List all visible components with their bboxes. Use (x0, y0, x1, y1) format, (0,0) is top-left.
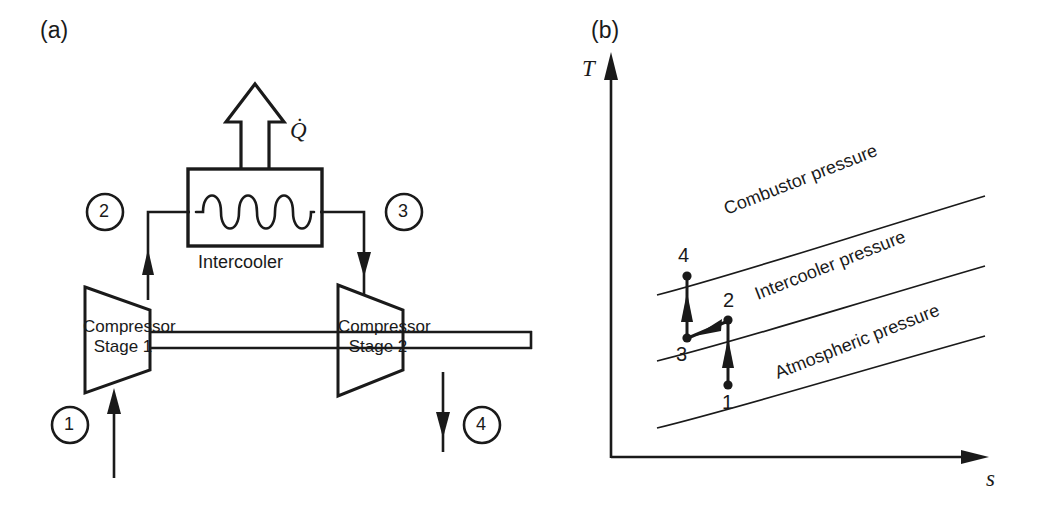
compressor-stage-2-line2: Stage 2 (338, 337, 418, 356)
panel-b-tag: (b) (591, 18, 619, 44)
heat-arrow-icon (226, 84, 284, 170)
ts-point-label-3: 3 (676, 343, 687, 365)
pipe-2-to-intercooler (148, 212, 190, 300)
compressor-stage-1-line2: Stage 1 (83, 337, 163, 356)
s-axis-label: s (986, 466, 995, 492)
compressor-stage-1-line1: Compressor (83, 317, 163, 336)
ts-diagram-svg (571, 0, 1041, 505)
ts-point-3 (682, 333, 691, 342)
intercooler-box (188, 169, 322, 246)
flow-arrow-2-icon (142, 249, 154, 275)
state-circle-label-3: 3 (398, 201, 408, 221)
state-circle-label-1: 1 (64, 414, 74, 434)
ts-point-label-1: 1 (722, 391, 733, 413)
compressor-stage-2-line1: Compressor (338, 317, 418, 336)
ts-point-1 (723, 380, 732, 389)
state-circle-label-2: 2 (99, 201, 109, 221)
t-axis-label: T (582, 56, 595, 82)
intercooler-label: Intercooler (198, 252, 283, 272)
ts-point-label-4: 4 (678, 244, 689, 266)
s-axis-arrowhead-icon (961, 450, 989, 464)
flow-arrow-4-icon (436, 412, 450, 438)
ts-point-2 (723, 315, 732, 324)
t-axis-arrowhead-icon (604, 52, 618, 80)
state-circle-label-4: 4 (476, 414, 486, 434)
flow-arrow-1-icon (107, 388, 121, 414)
heat-rate-label: Q̇ (290, 118, 307, 144)
flow-arrow-3-icon (357, 252, 371, 277)
process-arrow-2-3-icon (695, 319, 722, 336)
ts-point-label-2: 2 (723, 289, 734, 311)
process-arrow-3-4-icon (681, 292, 693, 322)
figure-root: (a) Q̇ Intercooler Compressor Stage 1 Co… (0, 0, 1041, 505)
ts-point-4 (682, 271, 691, 280)
panel-a-tag: (a) (40, 18, 68, 44)
